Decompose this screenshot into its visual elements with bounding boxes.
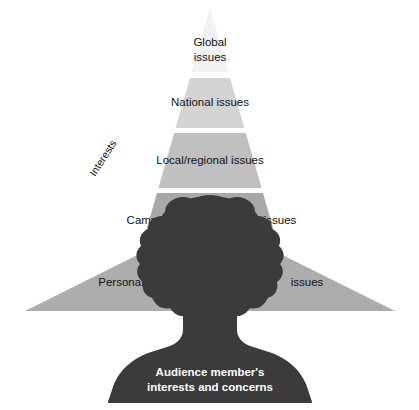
caption-line-1: Audience member's	[156, 366, 265, 378]
tier-label-global-line2: issues	[194, 51, 227, 63]
caption-line-2: interests and concerns	[147, 381, 273, 393]
tier-label-local-regional: Local/regional issues	[156, 154, 264, 166]
pyramid-diagram-canvas: Global issues National issues Local/regi…	[0, 0, 419, 410]
interests-axis-label: Interests	[87, 138, 119, 178]
tier-label-personal-left: Personal	[98, 276, 143, 288]
tier-label-global-line1: Global	[193, 36, 226, 48]
tier-label-personal-right: issues	[291, 276, 324, 288]
tier-label-national: National issues	[171, 96, 249, 108]
audience-interests-pyramid-figure: Global issues National issues Local/regi…	[0, 0, 419, 410]
silhouette-hair-lumps	[146, 195, 274, 317]
interests-axis-label-group: Interests	[87, 138, 119, 178]
